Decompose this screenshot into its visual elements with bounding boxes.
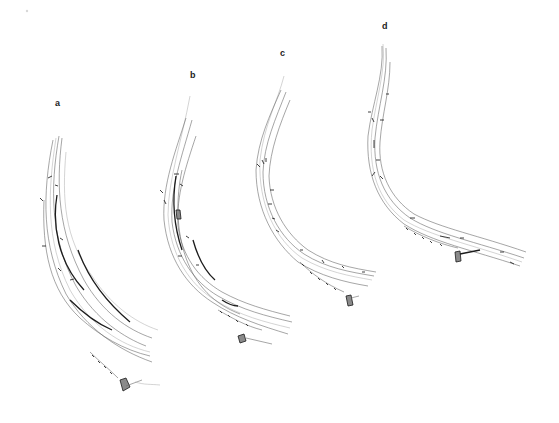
panel-b-foot [238, 334, 246, 343]
panel-b-marker [176, 210, 181, 219]
panel-c-foot [346, 295, 353, 306]
figure: a b c d [0, 0, 559, 423]
speck [26, 10, 28, 12]
panel-a-fiber [40, 136, 160, 391]
panel-d-fiber [368, 44, 526, 266]
panel-a-foot [120, 378, 130, 391]
panel-d-foot [455, 251, 461, 262]
panel-c-fiber [256, 76, 376, 306]
panel-b-fiber [160, 96, 292, 344]
figure-drawing [0, 0, 559, 423]
